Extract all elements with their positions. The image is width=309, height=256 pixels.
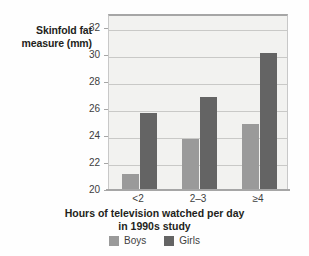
y-axis-tick-mark xyxy=(104,163,108,164)
gridline xyxy=(109,30,287,31)
legend-entry-boys: Boys xyxy=(109,236,146,246)
bar-girls-0 xyxy=(140,113,157,190)
legend-label-boys: Boys xyxy=(124,236,146,246)
y-axis-tick-label: 20 xyxy=(74,185,100,195)
x-axis-title-line-2: in 1990s study xyxy=(0,220,309,233)
chart-legend: Boys Girls xyxy=(0,236,309,246)
y-axis-tick-mark xyxy=(104,136,108,137)
x-axis-tick-label: ≥4 xyxy=(228,193,288,204)
y-axis-tick-label: 22 xyxy=(74,158,100,168)
legend-swatch-girls-icon xyxy=(164,236,174,246)
y-axis-tick-label: 30 xyxy=(74,50,100,60)
y-axis-tick-label: 24 xyxy=(74,131,100,141)
x-axis-tick-label: 2–3 xyxy=(168,193,228,204)
y-axis-tick-mark xyxy=(104,190,108,191)
y-axis-tick-label: 28 xyxy=(74,77,100,87)
y-axis-title-line-2: measure (mm) xyxy=(6,37,92,50)
y-axis-tick-mark xyxy=(104,109,108,110)
bar-boys-1 xyxy=(182,139,199,190)
x-axis-tick-label: <2 xyxy=(108,193,168,204)
legend-entry-girls: Girls xyxy=(164,236,200,246)
bar-girls-2 xyxy=(260,53,277,190)
bar-boys-0 xyxy=(122,174,139,190)
bar-girls-1 xyxy=(200,97,217,190)
x-axis-title: Hours of television watched per day in 1… xyxy=(0,207,309,233)
y-axis-tick-label: 32 xyxy=(74,23,100,33)
legend-label-girls: Girls xyxy=(179,236,200,246)
bar-boys-2 xyxy=(242,124,259,190)
y-axis-tick-mark xyxy=(104,82,108,83)
y-axis-tick-label: 26 xyxy=(74,104,100,114)
x-axis-title-line-1: Hours of television watched per day xyxy=(0,207,309,220)
x-axis-baseline xyxy=(106,189,290,191)
legend-swatch-boys-icon xyxy=(109,236,119,246)
bar-chart-figure: Skinfold fat measure (mm) 20222426283032… xyxy=(0,0,309,256)
plot-area xyxy=(108,14,288,190)
y-axis-tick-mark xyxy=(104,55,108,56)
y-axis-tick-mark xyxy=(104,28,108,29)
